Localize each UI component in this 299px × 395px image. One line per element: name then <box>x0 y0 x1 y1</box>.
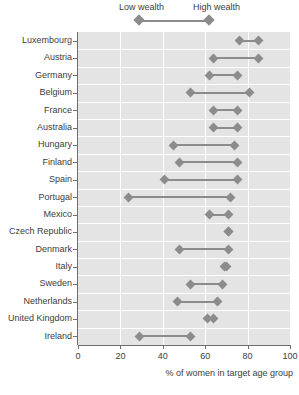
connector-line <box>165 179 237 181</box>
data-point-marker-high[interactable] <box>224 244 234 254</box>
category-label: United Kingdom <box>0 310 72 327</box>
x-axis-tick <box>290 345 291 349</box>
category-label: Sweden <box>0 275 72 292</box>
chart-row[interactable]: France <box>0 102 299 119</box>
chart-row[interactable]: Luxembourg <box>0 32 299 49</box>
chart-row[interactable]: Finland <box>0 154 299 171</box>
category-label: Denmark <box>0 241 72 258</box>
data-point-marker-high[interactable] <box>209 314 219 324</box>
data-point-marker-low[interactable] <box>168 140 178 150</box>
data-point-marker-low[interactable] <box>204 71 214 81</box>
dumbbell-chart: Low wealth High wealth LuxembourgAustria… <box>0 0 299 395</box>
category-label: Ireland <box>0 328 72 345</box>
x-axis-title: % of women in target age group <box>0 368 293 378</box>
data-point-marker-low[interactable] <box>185 88 195 98</box>
category-label: Belgium <box>0 84 72 101</box>
x-axis-tick-label: 20 <box>105 351 135 361</box>
data-point-marker-low[interactable] <box>160 175 170 185</box>
data-point-marker-low[interactable] <box>185 279 195 289</box>
data-point-marker-high[interactable] <box>232 175 242 185</box>
category-label: Mexico <box>0 206 72 223</box>
data-point-marker-low[interactable] <box>173 297 183 307</box>
chart-row[interactable]: Australia <box>0 119 299 136</box>
data-point-marker-high[interactable] <box>232 123 242 133</box>
data-point-marker-high[interactable] <box>245 88 255 98</box>
data-point-marker-high[interactable] <box>232 71 242 81</box>
data-point-marker-high[interactable] <box>185 331 195 341</box>
chart-row[interactable]: Mexico <box>0 206 299 223</box>
category-label: Australia <box>0 119 72 136</box>
chart-row[interactable]: United Kingdom <box>0 310 299 327</box>
category-label: Austria <box>0 49 72 66</box>
data-point-marker-high[interactable] <box>226 192 236 202</box>
legend-label-low-wealth: Low wealth <box>119 2 164 12</box>
category-label: Spain <box>0 171 72 188</box>
data-point-marker-high[interactable] <box>253 53 263 63</box>
x-axis-tick-label: 40 <box>148 351 178 361</box>
x-axis-tick <box>120 345 121 349</box>
data-point-marker-low[interactable] <box>209 123 219 133</box>
connector-line <box>214 57 259 59</box>
x-axis-tick <box>248 345 249 349</box>
x-axis-line <box>78 345 290 346</box>
legend-marker-high-wealth <box>203 14 214 25</box>
data-point-marker-low[interactable] <box>135 331 145 341</box>
x-axis-tick <box>163 345 164 349</box>
category-label: Luxembourg <box>0 32 72 49</box>
legend-connector-line <box>139 20 209 22</box>
chart-row[interactable]: Italy <box>0 258 299 275</box>
chart-row[interactable]: Ireland <box>0 328 299 345</box>
connector-line <box>139 335 190 337</box>
data-point-marker-high[interactable] <box>224 210 234 220</box>
chart-row[interactable]: Spain <box>0 171 299 188</box>
chart-row[interactable]: Belgium <box>0 84 299 101</box>
x-axis-tick-label: 100 <box>275 351 299 361</box>
data-point-marker-high[interactable] <box>213 297 223 307</box>
data-point-marker-low[interactable] <box>209 105 219 115</box>
connector-line <box>173 144 234 146</box>
category-label: Netherlands <box>0 293 72 310</box>
category-label: Czech Republic <box>0 223 72 240</box>
category-label: Hungary <box>0 136 72 153</box>
chart-legend: Low wealth High wealth <box>0 0 299 30</box>
legend-label-high-wealth: High wealth <box>193 2 240 12</box>
data-point-marker-high[interactable] <box>232 157 242 167</box>
category-label: Portugal <box>0 189 72 206</box>
connector-line <box>180 161 237 163</box>
chart-row[interactable]: Austria <box>0 49 299 66</box>
connector-line <box>190 92 249 94</box>
x-axis-tick-label: 60 <box>190 351 220 361</box>
chart-row[interactable]: Denmark <box>0 241 299 258</box>
chart-row[interactable]: Germany <box>0 67 299 84</box>
chart-row[interactable]: Sweden <box>0 275 299 292</box>
chart-row[interactable]: Netherlands <box>0 293 299 310</box>
data-point-marker-high[interactable] <box>253 36 263 46</box>
x-axis-tick-label: 0 <box>63 351 93 361</box>
chart-row[interactable]: Portugal <box>0 189 299 206</box>
chart-row[interactable]: Czech Republic <box>0 223 299 240</box>
category-label: Germany <box>0 67 72 84</box>
x-axis-tick-label: 80 <box>233 351 263 361</box>
x-axis-tick <box>205 345 206 349</box>
data-point-marker-low[interactable] <box>175 244 185 254</box>
category-label: Finland <box>0 154 72 171</box>
data-point-marker-low[interactable] <box>175 157 185 167</box>
connector-line <box>129 196 231 198</box>
data-point-marker-high[interactable] <box>230 140 240 150</box>
x-axis-tick <box>78 345 79 349</box>
chart-row[interactable]: Hungary <box>0 136 299 153</box>
data-point-marker-high[interactable] <box>217 279 227 289</box>
data-point-marker-low[interactable] <box>234 36 244 46</box>
data-point-marker-low[interactable] <box>204 210 214 220</box>
data-point-marker-high[interactable] <box>232 105 242 115</box>
data-point-marker-low[interactable] <box>209 53 219 63</box>
legend-marker-low-wealth <box>133 14 144 25</box>
category-label: Italy <box>0 258 72 275</box>
connector-line <box>180 248 229 250</box>
data-point-marker-low[interactable] <box>124 192 134 202</box>
data-point-marker-high[interactable] <box>224 227 234 237</box>
category-label: France <box>0 102 72 119</box>
